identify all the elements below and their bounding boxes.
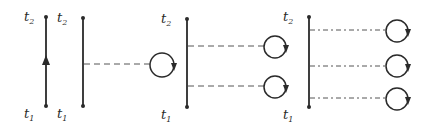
loop-arrow-icon (405, 64, 411, 72)
loop-arrow-icon (405, 29, 411, 37)
label-subscript: 1 (29, 114, 34, 123)
loop-circle (386, 55, 408, 77)
loop-arrow-icon (283, 85, 289, 93)
endpoint-dot-top (185, 17, 189, 21)
label-subscript: 2 (28, 17, 34, 26)
label-t2: t2 (24, 9, 34, 26)
label-subscript: 2 (165, 19, 171, 28)
endpoint-dot-bottom (185, 105, 189, 109)
loop-arrow-icon (283, 45, 289, 53)
endpoint-dot-top (81, 16, 85, 20)
label-t1: t1 (161, 107, 171, 124)
label-t1: t1 (24, 106, 34, 123)
endpoint-dot-top (44, 15, 48, 19)
panel-2: t2t1 (57, 10, 177, 123)
loop-circle (264, 76, 286, 98)
label-subscript: 1 (166, 115, 171, 124)
panel-1: t2t1 (24, 9, 50, 123)
label-subscript: 1 (288, 115, 293, 124)
label-subscript: 2 (287, 17, 293, 26)
loop-circle (386, 20, 408, 42)
label-t1: t1 (57, 106, 67, 123)
loop-circle (150, 53, 174, 77)
worldline-diagram: t2t1t2t1t2t1t2t1 (0, 0, 433, 128)
label-subscript: 1 (62, 114, 67, 123)
endpoint-dot-bottom (81, 104, 85, 108)
endpoint-dot-bottom (44, 104, 48, 108)
loop-arrow-icon (405, 97, 411, 105)
endpoint-dot-bottom (307, 105, 311, 109)
label-t2: t2 (283, 9, 293, 26)
panel-4: t2t1 (283, 9, 411, 124)
arrow-up-icon (42, 55, 50, 65)
endpoint-dot-top (307, 15, 311, 19)
loop-circle (386, 88, 408, 110)
label-t2: t2 (161, 11, 171, 28)
loop-circle (264, 36, 286, 58)
panel-3: t2t1 (161, 11, 289, 124)
loop-arrow-icon (171, 63, 177, 71)
label-t1: t1 (283, 107, 293, 124)
label-t2: t2 (57, 10, 67, 27)
label-subscript: 2 (61, 18, 67, 27)
